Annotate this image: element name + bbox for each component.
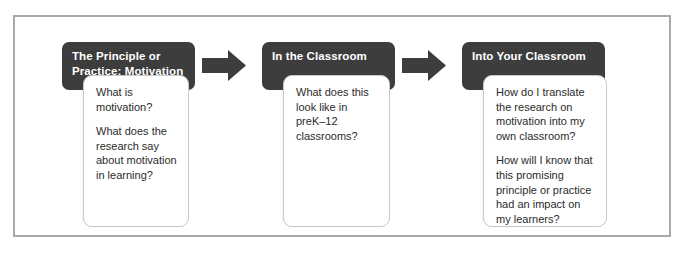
stage-1-question-1: What is motivation? <box>96 85 178 114</box>
arrow-stage1-to-stage2-icon <box>202 50 246 85</box>
stage-1-question-2: What does the research say about motivat… <box>96 124 178 182</box>
stage-3-question-card: How do I translate the research on motiv… <box>483 75 607 227</box>
stage-1-question-card: What is motivation? What does the resear… <box>83 75 189 227</box>
stage-3-question-2: How will I know that this promising prin… <box>496 153 596 226</box>
stage-2-question-1: What does this look like in preK–12 clas… <box>296 85 379 143</box>
stage-2-question-card: What does this look like in preK–12 clas… <box>283 75 390 227</box>
diagram-frame: The Principle or Practice: Motivation Wh… <box>13 15 671 237</box>
stage-3-question-1: How do I translate the research on motiv… <box>496 85 596 143</box>
arrow-stage2-to-stage3-icon <box>402 50 446 85</box>
